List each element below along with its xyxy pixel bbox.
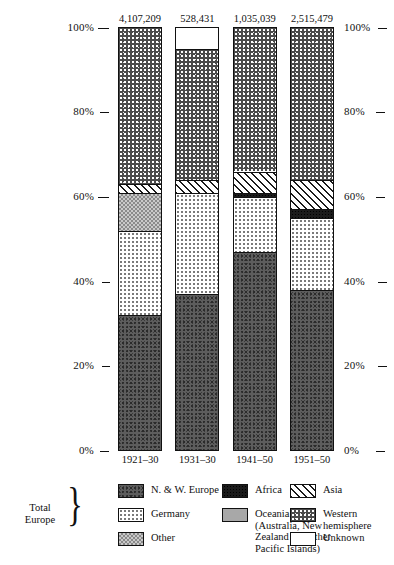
y-tick-right-0: [376, 451, 385, 452]
segment-western-hemisphere: [176, 49, 218, 180]
bar-group: 4,107,2091921–30528,4311931–301,035,0391…: [118, 27, 334, 451]
bar-total-label: 2,515,479: [291, 13, 333, 24]
y-axis-label-left-0: 0%: [58, 444, 94, 456]
y-tick-left-100: [98, 28, 109, 29]
segment-n-w-europe: [176, 294, 218, 450]
segment-germany: [234, 197, 276, 252]
legend-item-africa[interactable]: Africa: [222, 484, 282, 498]
x-axis-label-1: 1921–30: [122, 454, 159, 465]
legend-item-unknown[interactable]: Unknown: [290, 532, 364, 546]
legend-label-other: Other: [151, 532, 175, 544]
segment-n-w-europe: [234, 252, 276, 450]
bar-total-label: 1,035,039: [234, 13, 276, 24]
bar-3: 1,035,0391941–50: [233, 27, 277, 451]
segment-germany: [176, 193, 218, 294]
legend-label-germany: Germany: [151, 508, 190, 520]
legend-total-europe-label: Total Europe: [18, 502, 62, 525]
swatch-asia-icon: [290, 484, 316, 498]
segment-n-w-europe: [291, 290, 333, 450]
segment-western-hemisphere: [291, 28, 333, 180]
segment-unknown: [176, 28, 218, 49]
legend-label-unknown: Unknown: [323, 532, 364, 544]
segment-n-w-europe: [119, 315, 161, 450]
segment-western-hemisphere: [119, 28, 161, 184]
legend-item-germany[interactable]: Germany: [118, 508, 190, 522]
y-axis-label-left-60: 60%: [58, 190, 94, 202]
stacked-bar-chart: 100% 80% 60% 40% 20% 0% 100% 80% 60% 40%…: [0, 0, 394, 478]
y-axis-label-left-20: 20%: [58, 359, 94, 371]
segment-africa: [234, 193, 276, 197]
y-tick-left-60: [98, 197, 109, 198]
x-axis-label-3: 1941–50: [236, 454, 273, 465]
legend-item-other[interactable]: Other: [118, 532, 175, 546]
y-axis-label-right-100: 100%: [344, 21, 370, 33]
y-tick-left-80: [100, 112, 109, 113]
segment-asia: [234, 172, 276, 193]
y-tick-right-80: [376, 112, 385, 113]
legend-label-western-hemisphere: Western hemisphere: [323, 508, 394, 531]
segment-other: [119, 193, 161, 231]
legend-label-asia: Asia: [323, 484, 342, 496]
segment-asia: [291, 180, 333, 210]
swatch-other-icon: [118, 532, 144, 546]
y-axis-label-right-80: 80%: [344, 105, 365, 117]
segment-western-hemisphere: [234, 28, 276, 171]
y-axis-label-left-80: 80%: [58, 105, 94, 117]
y-axis-label-right-0: 0%: [344, 444, 359, 456]
y-tick-left-20: [102, 366, 110, 367]
y-axis-label-right-20: 20%: [344, 359, 365, 371]
y-axis-label-left-40: 40%: [58, 275, 94, 287]
segment-africa: [291, 209, 333, 217]
y-tick-left-0: [100, 451, 109, 452]
y-axis-label-right-60: 60%: [344, 190, 365, 202]
legend-label-n-w-europe: N. & W. Europe: [151, 484, 219, 496]
swatch-africa-icon: [222, 484, 248, 498]
segment-asia: [119, 184, 161, 192]
segment-germany: [119, 231, 161, 315]
brace-icon: }: [67, 482, 82, 528]
bar-1: 4,107,2091921–30: [118, 27, 162, 451]
legend-item-western-hemisphere[interactable]: Western hemisphere: [290, 508, 394, 531]
bar-total-label: 4,107,209: [119, 13, 161, 24]
segment-asia: [176, 180, 218, 193]
legend-item-asia[interactable]: Asia: [290, 484, 342, 498]
legend-item-n-w-europe[interactable]: N. & W. Europe: [118, 484, 219, 498]
bar-4: 2,515,4791951–50: [290, 27, 334, 451]
bar-total-label: 528,431: [180, 13, 214, 24]
x-axis-label-4: 1951–50: [294, 454, 331, 465]
x-axis-label-2: 1931–30: [179, 454, 216, 465]
y-tick-right-20: [378, 366, 387, 367]
legend-label-africa: Africa: [255, 484, 282, 496]
y-tick-right-40: [378, 282, 387, 283]
swatch-oceania-icon: [222, 508, 248, 522]
swatch-unknown-icon: [290, 532, 316, 546]
swatch-western-hemisphere-icon: [290, 508, 316, 522]
bar-2: 528,4311931–30: [175, 27, 219, 451]
y-tick-right-60: [376, 197, 385, 198]
swatch-n-w-europe-icon: [118, 484, 144, 498]
swatch-germany-icon: [118, 508, 144, 522]
y-axis-label-left-100: 100%: [58, 21, 94, 33]
y-tick-right-100: [378, 28, 387, 29]
legend-total-europe-brace: Total Europe }: [18, 486, 114, 548]
chart-legend: Total Europe } N. & W. Europe Germany Ot…: [0, 480, 394, 550]
y-tick-left-40: [102, 282, 110, 283]
segment-germany: [291, 218, 333, 290]
y-axis-label-right-40: 40%: [344, 275, 365, 287]
